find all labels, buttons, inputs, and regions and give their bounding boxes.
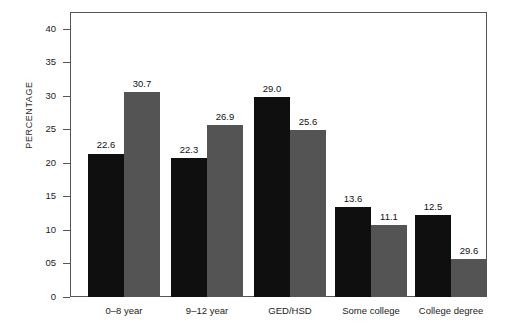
bar (451, 259, 487, 297)
y-tick-mark (63, 163, 70, 164)
bar-value-label: 29.6 (445, 245, 493, 256)
bar-value-label: 25.6 (284, 116, 332, 127)
y-tick-label: 15 (45, 190, 56, 201)
bars-layer: 22.630.722.326.929.025.613.611.112.529.6 (70, 12, 487, 297)
bar (254, 97, 290, 297)
y-tick-mark (63, 263, 70, 264)
bar-value-label: 13.6 (329, 193, 377, 204)
bar-value-label: 12.5 (409, 201, 457, 212)
bar-value-label: 22.3 (165, 144, 213, 155)
bar-value-label: 29.0 (248, 83, 296, 94)
bar-value-label: 11.1 (365, 211, 413, 222)
y-tick-label: 0 (51, 291, 56, 302)
y-tick-label: 30 (45, 90, 56, 101)
bar (207, 125, 243, 297)
y-axis-title: PERCENTAGE (24, 55, 34, 175)
bar-value-label: 26.9 (201, 111, 249, 122)
x-axis-label: College degree (401, 305, 501, 316)
y-tick-mark (63, 196, 70, 197)
y-tick-label: 25 (45, 123, 56, 134)
y-tick-mark (63, 62, 70, 63)
bar (371, 225, 407, 297)
bar-value-label: 22.6 (82, 139, 130, 150)
y-tick-label: 40 (45, 23, 56, 34)
bar (124, 92, 160, 297)
y-tick-mark (63, 29, 70, 30)
bar (290, 130, 326, 297)
bar (88, 154, 124, 298)
y-tick-mark (63, 96, 70, 97)
y-tick-label: 05 (45, 257, 56, 268)
y-tick-label: 35 (45, 56, 56, 67)
bar (171, 158, 207, 297)
bar-chart: PERCENTAGE 00510152025303540 22.630.722.… (0, 0, 509, 333)
y-tick-mark (63, 297, 70, 298)
y-tick-mark (63, 129, 70, 130)
y-tick-label: 10 (45, 224, 56, 235)
bar-value-label: 30.7 (118, 78, 166, 89)
y-tick-mark (63, 230, 70, 231)
y-tick-label: 20 (45, 157, 56, 168)
